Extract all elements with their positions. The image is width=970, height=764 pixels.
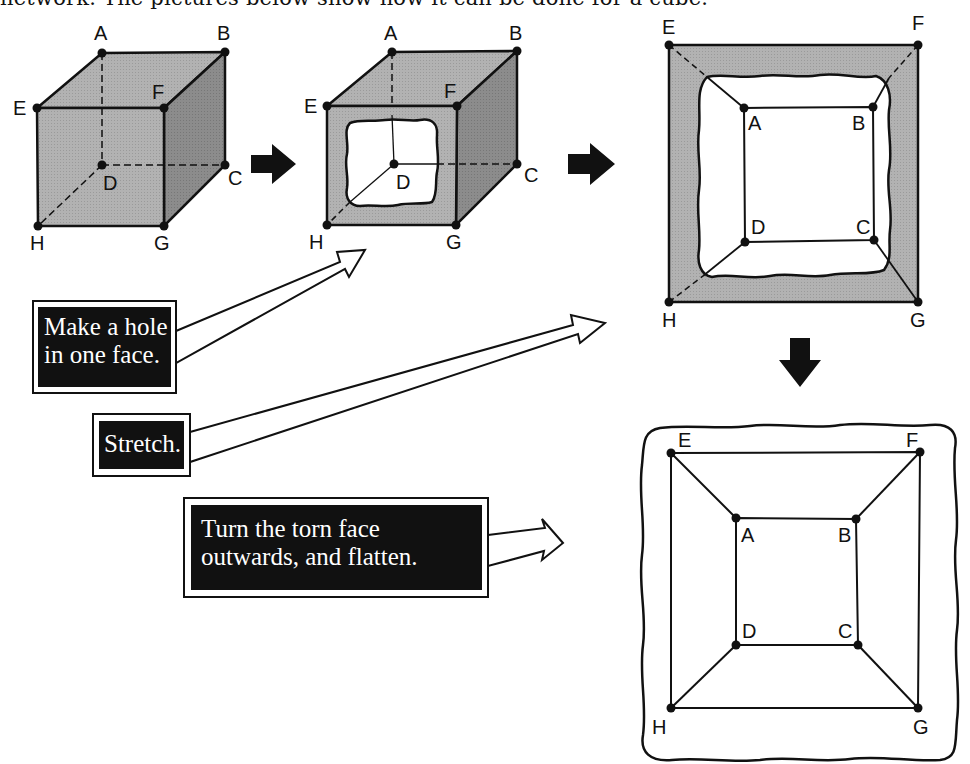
vertex-label-d: D [396,171,410,193]
vertex-label-a: A [384,22,398,44]
vertex-label-h: H [30,232,44,254]
callout-arrow-flatten [488,519,563,566]
flattened-network-step-4: E F A B D C H G [641,424,958,761]
vertex-label-e: E [662,16,675,38]
callout-arrow-make-hole [176,250,365,363]
vertex-label-d: D [742,620,756,642]
vertex-label-c: C [524,164,538,186]
vertex-label-f: F [152,81,164,103]
vertex-label-b: B [838,524,851,546]
callout-line: outwards, and flatten. [201,543,472,571]
vertex-label-f: F [912,12,924,34]
vertex-label-c: C [856,216,870,238]
vertex-label-e: E [678,429,691,451]
vertex-label-h: H [309,231,323,253]
callout-line: Make a hole [44,313,165,341]
vertex-label-a: A [748,112,762,134]
vertex-label-h: H [652,716,666,738]
vertex-label-h: H [662,309,676,331]
vertex-label-d: D [103,172,117,194]
vertex-label-e: E [13,97,26,119]
cube-step-1: A B E F D C H G [13,22,242,254]
callout-line: in one face. [44,341,165,369]
stretched-step-3: E F A B D C H G [662,12,926,331]
vertex-label-d: D [751,216,765,238]
arrow-right-icon-1 [251,144,296,184]
callout-make-hole: Make a hole in one face. [38,307,171,387]
vertex-label-g: G [910,309,926,331]
arrow-down-icon [779,338,821,387]
vertex-label-c: C [838,620,852,642]
vertex-label-c: C [228,167,242,189]
vertex-label-f: F [444,80,456,102]
vertex-label-a: A [741,524,755,546]
callout-turn-flatten: Turn the torn face outwards, and flatten… [191,505,482,590]
callout-line: Stretch. [104,430,179,458]
callout-arrow-stretch [190,315,605,462]
vertex-label-f: F [906,429,918,451]
vertex-label-g: G [446,231,462,253]
vertex-label-b: B [852,112,865,134]
vertex-label-a: A [94,22,108,44]
vertex-label-b: B [217,22,230,44]
stretched-hole [698,74,891,277]
vertex-label-g: G [913,716,929,738]
arrow-right-icon-2 [568,143,615,185]
vertex-label-e: E [304,95,317,117]
callout-line: Turn the torn face [201,515,472,543]
torn-face-boundary [641,424,958,761]
callout-stretch: Stretch. [99,421,184,469]
vertex-label-g: G [154,232,170,254]
vertex-label-b: B [509,22,522,44]
cube-step-2: A B E F D C H G [304,22,538,253]
